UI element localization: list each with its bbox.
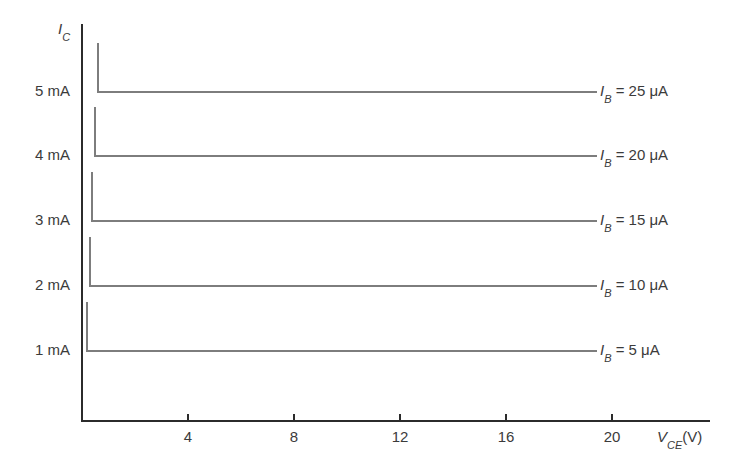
y-tick-label: 4 mA bbox=[8, 146, 70, 163]
x-axis-title-symbol: V bbox=[657, 428, 667, 445]
curve-label-ib-15ua: IB = 15 μA bbox=[600, 211, 668, 229]
y-tick-1ma: 1 mA bbox=[0, 341, 70, 359]
curve-flat-ib-5ua bbox=[86, 350, 597, 352]
curve-flat-ib-20ua bbox=[94, 155, 597, 157]
x-tick-mark-8 bbox=[293, 414, 295, 421]
curve-rise-ib-20ua bbox=[94, 107, 96, 157]
x-tick-mark-12 bbox=[399, 414, 401, 421]
curve-label-ib-10ua: IB = 10 μA bbox=[600, 276, 668, 294]
x-axis-title-subscript: CE bbox=[667, 439, 682, 451]
curve-label-ib-25ua: IB = 25 μA bbox=[600, 82, 668, 100]
curve-label-subscript: B bbox=[604, 222, 611, 234]
curve-label-value: = 5 μA bbox=[616, 341, 660, 358]
curve-label-ib-20ua: IB = 20 μA bbox=[600, 146, 668, 164]
x-axis-title: VCE(V) bbox=[657, 428, 702, 448]
y-tick-label: 1 mA bbox=[8, 341, 70, 358]
y-axis-line bbox=[81, 24, 83, 422]
curve-label-value: = 25 μA bbox=[616, 82, 668, 99]
x-axis-title-unit: (V) bbox=[682, 428, 702, 445]
curve-label-value: = 20 μA bbox=[616, 146, 668, 163]
y-axis-title-subscript: C bbox=[62, 31, 70, 43]
curve-label-value: = 10 μA bbox=[616, 276, 668, 293]
curve-label-subscript: B bbox=[604, 157, 611, 169]
y-tick-label: 5 mA bbox=[8, 82, 70, 99]
x-tick-label-4: 4 bbox=[168, 428, 208, 445]
x-tick-mark-16 bbox=[505, 414, 507, 421]
x-axis-line bbox=[81, 420, 710, 422]
curve-label-subscript: B bbox=[604, 352, 611, 364]
curve-label-ib-5ua: IB = 5 μA bbox=[600, 341, 660, 359]
y-tick-label: 2 mA bbox=[8, 276, 70, 293]
y-tick-2ma: 2 mA bbox=[0, 276, 70, 294]
y-tick-label: 3 mA bbox=[8, 211, 70, 228]
curve-flat-ib-15ua bbox=[91, 220, 597, 222]
x-tick-label-8: 8 bbox=[274, 428, 314, 445]
curve-label-value: = 15 μA bbox=[616, 211, 668, 228]
curve-label-subscript: B bbox=[604, 93, 611, 105]
curve-flat-ib-10ua bbox=[89, 285, 597, 287]
x-tick-mark-4 bbox=[187, 414, 189, 421]
x-tick-label-20: 20 bbox=[592, 428, 632, 445]
curve-rise-ib-25ua bbox=[97, 43, 99, 93]
curve-rise-ib-5ua bbox=[86, 302, 88, 352]
curve-rise-ib-15ua bbox=[91, 172, 93, 222]
x-tick-label-16: 16 bbox=[486, 428, 526, 445]
y-tick-5ma: 5 mA bbox=[0, 82, 70, 100]
y-axis-title: IC bbox=[58, 20, 70, 40]
y-tick-4ma: 4 mA bbox=[0, 146, 70, 164]
y-tick-3ma: 3 mA bbox=[0, 211, 70, 229]
x-tick-mark-20 bbox=[611, 414, 613, 421]
curve-rise-ib-10ua bbox=[89, 237, 91, 287]
curve-flat-ib-25ua bbox=[97, 91, 597, 93]
curve-label-subscript: B bbox=[604, 287, 611, 299]
transistor-output-characteristics-chart: IC 5 mA 4 mA 3 mA 2 mA 1 mA IB = 25 μA I… bbox=[0, 0, 745, 473]
x-tick-label-12: 12 bbox=[380, 428, 420, 445]
